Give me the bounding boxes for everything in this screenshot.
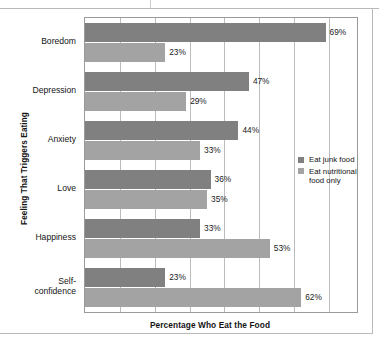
bar-group: 23%62% — [85, 268, 357, 308]
bar — [85, 170, 211, 189]
figure-frame-right-border — [372, 8, 373, 334]
bar-value-label: 33% — [204, 145, 221, 155]
bar-group: 33%53% — [85, 219, 357, 259]
bar — [85, 92, 186, 111]
bar — [85, 268, 165, 287]
y-axis-tick-label: Depression — [0, 85, 76, 96]
bar-value-label: 53% — [274, 243, 291, 253]
bar-value-label: 44% — [242, 125, 259, 135]
legend-swatch-icon-nutritional-food — [298, 168, 304, 174]
y-axis-tick-label: Self-confidence — [0, 276, 76, 297]
x-axis-title: Percentage Who Eat the Food — [84, 320, 336, 330]
figure-frame-notch — [150, 0, 296, 8]
bar — [85, 72, 249, 91]
bar — [85, 219, 200, 238]
bar — [85, 288, 301, 307]
chart-figure: Feeling That Triggers Eating BoredomDepr… — [0, 0, 379, 347]
y-axis-tick-label: Happiness — [0, 232, 76, 243]
bar — [85, 43, 165, 62]
bar-value-label: 35% — [211, 194, 228, 204]
bar-value-label: 23% — [169, 47, 186, 57]
bar-group: 47%29% — [85, 72, 357, 112]
bar — [85, 190, 207, 209]
bar — [85, 239, 270, 258]
bar-value-label: 36% — [215, 174, 232, 184]
bar-value-label: 62% — [305, 292, 322, 302]
bar-value-label: 23% — [169, 272, 186, 282]
legend-label-nutritional-food: Eat nutritional food only — [309, 167, 357, 186]
chart-legend: Eat junk food Eat nutritional food only — [298, 155, 360, 188]
bar-value-label: 47% — [253, 76, 270, 86]
y-axis-tick-label: Boredom — [0, 36, 76, 47]
legend-item-junk-food: Eat junk food — [298, 155, 360, 165]
figure-frame-bottom-border — [0, 333, 373, 334]
bar-value-label: 69% — [330, 27, 347, 37]
bar-group: 69%23% — [85, 23, 357, 63]
bar — [85, 23, 326, 42]
y-axis-tick-label: Love — [0, 183, 76, 194]
bar — [85, 141, 200, 160]
bar-value-label: 33% — [204, 223, 221, 233]
bar-value-label: 29% — [190, 96, 207, 106]
legend-item-nutritional-food: Eat nutritional food only — [298, 167, 360, 186]
bar — [85, 121, 238, 140]
legend-label-junk-food: Eat junk food — [309, 155, 355, 164]
y-axis-tick-label: Anxiety — [0, 134, 76, 145]
y-axis-category-labels: BoredomDepressionAnxietyLoveHappinessSel… — [0, 17, 80, 313]
figure-frame-top-border — [0, 8, 379, 9]
legend-swatch-icon-junk-food — [298, 157, 304, 163]
